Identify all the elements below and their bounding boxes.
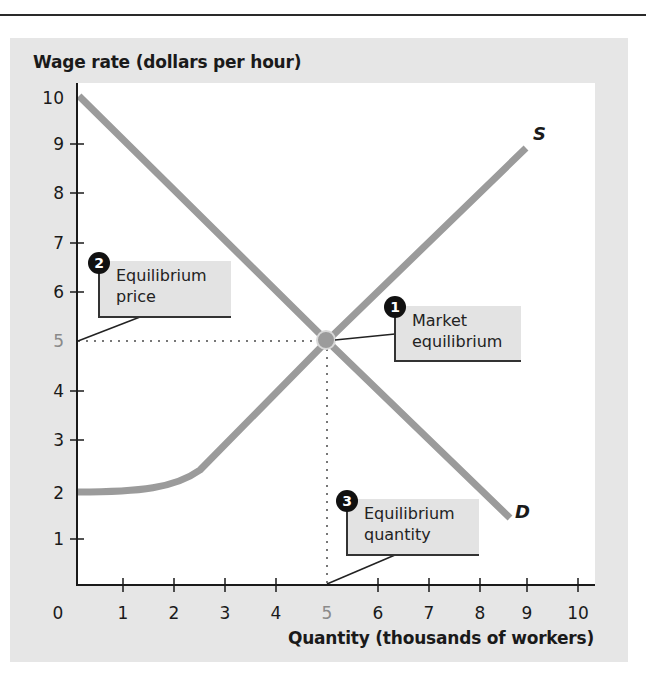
x-tick-0: 0 (53, 603, 64, 623)
y-tick-10: 10 (42, 88, 64, 108)
y-tick-4: 4 (53, 381, 64, 401)
y-tick-6: 6 (53, 282, 64, 302)
x-tick-9: 9 (522, 603, 533, 623)
x-tick-7: 7 (424, 603, 435, 623)
y-tick-9: 9 (53, 134, 64, 154)
y-tick-8: 8 (53, 183, 64, 203)
x-tick-1: 1 (118, 603, 129, 623)
x-axis-title: Quantity (thousands of workers) (288, 628, 594, 648)
x-tick-10: 10 (567, 603, 589, 623)
badge-1: 1 (384, 296, 406, 318)
callout-equilibrium-quantity: Equilibrium quantity (346, 499, 479, 556)
callout-market-line1: Market (412, 310, 513, 331)
x-tick-4: 4 (271, 603, 282, 623)
x-tick-6: 6 (373, 603, 384, 623)
y-tick-labels: 10 9 8 7 6 5 4 3 2 1 (42, 88, 64, 549)
callout-price-line1: Equilibrium (116, 265, 223, 286)
supply-label: S (533, 123, 546, 144)
y-tick-3: 3 (53, 430, 64, 450)
y-tick-7: 7 (53, 233, 64, 253)
callout-equilibrium-price: Equilibrium price (98, 261, 231, 318)
x-tick-8: 8 (475, 603, 486, 623)
chart-plot: 10 9 8 7 6 5 4 3 2 1 0 1 2 3 4 5 6 7 8 9… (0, 0, 646, 676)
y-tick-1: 1 (53, 529, 64, 549)
badge-3: 3 (336, 490, 358, 512)
callout-price-line2: price (116, 286, 223, 307)
y-tick-5: 5 (53, 331, 64, 351)
demand-label: D (515, 501, 530, 522)
y-tick-2: 2 (53, 483, 64, 503)
x-tick-5: 5 (322, 603, 333, 623)
callout-quantity-line2: quantity (364, 524, 471, 545)
x-tick-labels: 0 1 2 3 4 5 6 7 8 9 10 (53, 603, 589, 623)
badge-2: 2 (88, 252, 110, 274)
x-tick-2: 2 (169, 603, 180, 623)
equilibrium-point (317, 331, 335, 349)
callout-market-equilibrium: Market equilibrium (394, 306, 521, 362)
callout-market-line2: equilibrium (412, 331, 513, 352)
callout-quantity-line1: Equilibrium (364, 503, 471, 524)
x-tick-3: 3 (220, 603, 231, 623)
